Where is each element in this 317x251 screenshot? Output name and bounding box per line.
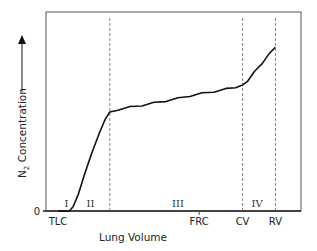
plot-frame (46, 12, 301, 211)
phase-label: II (86, 198, 94, 209)
y-tick-label: 0 (34, 206, 40, 217)
y-ticks: 0 (34, 206, 40, 217)
phase-label: I (64, 198, 68, 209)
x-marker-label-frc: FRC (190, 216, 209, 227)
x-marker-label-cv: CV (236, 216, 250, 227)
x-marker-label-tlc: TLC (48, 216, 68, 227)
phase-label: IV (252, 198, 264, 209)
y-axis-arrow-icon (18, 35, 26, 44)
phase-labels: IIIIIIIV (64, 198, 263, 209)
y-axis-title-n: N (16, 170, 28, 178)
chart: N2 Concentration 0 TLCFRCCVRV IIIIIIIV L… (0, 0, 317, 251)
y-axis-title: N2 Concentration (16, 88, 31, 178)
y-axis-title-group: N2 Concentration (16, 35, 31, 178)
x-markers: TLCFRCCVRV (48, 16, 283, 227)
phase-label: III (172, 198, 184, 209)
y-axis-title-rest: Concentration (16, 88, 28, 166)
x-axis-title: Lung Volume (99, 231, 167, 243)
x-marker-label-rv: RV (269, 216, 282, 227)
